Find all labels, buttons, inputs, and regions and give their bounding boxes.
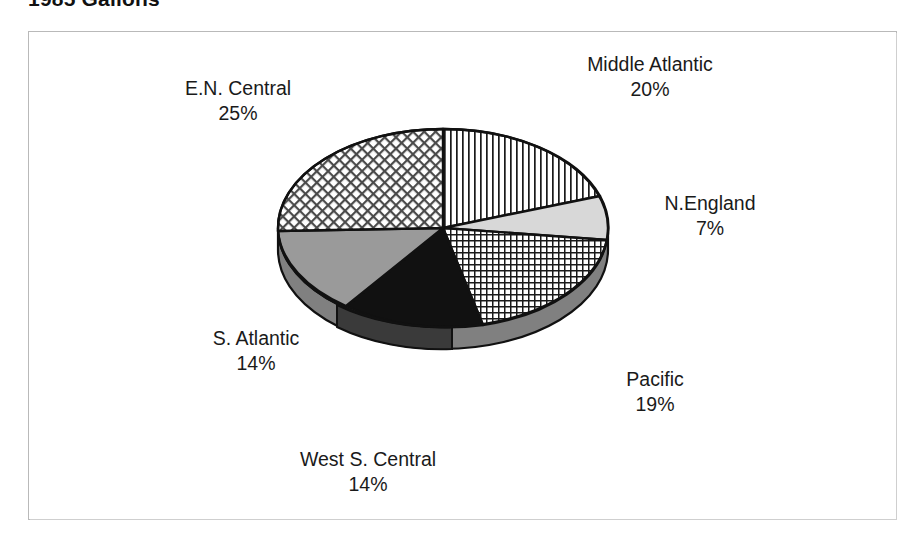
slice-label-name: Pacific [580, 367, 730, 392]
slice-label-s-atlantic: S. Atlantic 14% [156, 326, 356, 376]
slice-label-pacific: Pacific 19% [580, 367, 730, 417]
slice-label-name: N.England [625, 191, 795, 216]
slice-label-name: Middle Atlantic [545, 52, 755, 77]
slice-label-name: E.N. Central [128, 76, 348, 101]
slice-label-percent: 7% [625, 216, 795, 241]
slice-label-percent: 14% [238, 472, 498, 497]
slice-label-en-central: E.N. Central 25% [128, 76, 348, 126]
slice-label-nengland: N.England 7% [625, 191, 795, 241]
slice-label-middle-atlantic: Middle Atlantic 20% [545, 52, 755, 102]
slice-label-name: S. Atlantic [156, 326, 356, 351]
chart-page: 1985 Gallons [0, 0, 923, 540]
slice-label-percent: 25% [128, 101, 348, 126]
slice-label-percent: 19% [580, 392, 730, 417]
slice-label-percent: 14% [156, 351, 356, 376]
slice-label-west-s-central: West S. Central 14% [238, 447, 498, 497]
slice-label-name: West S. Central [238, 447, 498, 472]
slice-label-percent: 20% [545, 77, 755, 102]
pie-slice-en-central[interactable] [278, 129, 443, 231]
